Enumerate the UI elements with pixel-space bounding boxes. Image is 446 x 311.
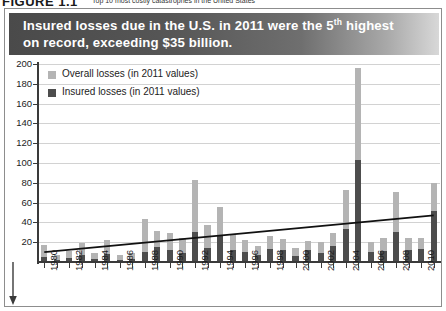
x-axis-tick-mark (145, 263, 146, 268)
x-axis-tick-mark (82, 263, 83, 268)
x-axis-tick-mark (371, 263, 372, 268)
chart-title: Insured losses due in the U.S. in 2011 w… (23, 18, 425, 51)
x-axis-tick-mark (220, 263, 221, 268)
y-axis-tick-label: 20 (2, 236, 32, 247)
x-axis-tick-mark (107, 263, 108, 268)
figure-root: FIGURE 1.1 Top 10 most costly catastroph… (0, 0, 446, 311)
x-axis-tick-mark (358, 263, 359, 268)
x-axis-tick-mark (120, 263, 121, 268)
y-axis-tick-mark (33, 222, 38, 223)
y-axis-tick-mark (33, 123, 38, 124)
y-axis-tick-mark (33, 242, 38, 243)
y-axis-tick-mark (33, 203, 38, 204)
y-axis-tick-label: 160 (2, 98, 32, 109)
title-banner: Insured losses due in the U.S. in 2011 w… (9, 13, 439, 55)
x-axis-tick-mark (170, 263, 171, 268)
x-axis-tick-mark (157, 263, 158, 268)
y-axis-tick-label: 60 (2, 197, 32, 208)
y-axis-tick-mark (33, 84, 38, 85)
y-axis-tick-label: 180 (2, 78, 32, 89)
x-axis-tick-mark (95, 263, 96, 268)
y-axis-tick-mark (33, 163, 38, 164)
x-axis-tick-mark (308, 263, 309, 268)
y-axis-tick-mark (33, 143, 38, 144)
y-axis-tick-mark (33, 183, 38, 184)
x-axis-tick-mark (434, 263, 435, 268)
y-axis-tick-label: 80 (2, 177, 32, 188)
legend-label-insured: Insured losses (in 2011 values) (62, 86, 200, 97)
x-axis-tick-mark (208, 263, 209, 268)
legend-label-overall: Overall losses (in 2011 values) (62, 68, 198, 79)
figure-caption-text: Top 10 most costly catastrophes in the U… (92, 0, 255, 4)
x-axis-tick-mark (383, 263, 384, 268)
x-axis-tick-mark (270, 263, 271, 268)
x-axis-tick-mark (409, 263, 410, 268)
down-arrow-icon (8, 262, 18, 306)
y-axis-tick-label: 200 (2, 58, 32, 69)
x-axis-tick-mark (132, 263, 133, 268)
chart-title-ordinal-suffix: th (334, 17, 342, 27)
x-axis-tick-mark (69, 263, 70, 268)
x-axis-tick-mark (182, 263, 183, 268)
y-axis-tick-mark (33, 104, 38, 105)
x-axis-tick-mark (245, 263, 246, 268)
x-axis-tick-mark (258, 263, 259, 268)
y-axis-tick-mark (33, 64, 38, 65)
chart-title-line2: on record, exceeding $35 billion. (23, 35, 232, 50)
legend-swatch-insured-icon (48, 89, 56, 97)
x-axis-tick-mark (57, 263, 58, 268)
legend-swatch-overall-icon (48, 71, 56, 79)
x-axis-tick-mark (296, 263, 297, 268)
x-axis-tick-mark (321, 263, 322, 268)
x-axis-tick-mark (195, 263, 196, 268)
x-axis-tick-mark (421, 263, 422, 268)
x-axis-tick-mark (333, 263, 334, 268)
chart-title-line1-a: Insured losses due in the U.S. in 2011 w… (23, 18, 334, 33)
x-axis-tick-mark (233, 263, 234, 268)
chart-title-line1-b: highest (342, 18, 394, 33)
y-axis-tick-label: 120 (2, 137, 32, 148)
y-axis-tick-label: 100 (2, 157, 32, 168)
x-axis-tick-mark (44, 263, 45, 268)
y-axis-tick-label: 40 (2, 216, 32, 227)
x-axis-tick-mark (346, 263, 347, 268)
x-axis-tick-mark (283, 263, 284, 268)
y-axis-tick-label: 140 (2, 117, 32, 128)
x-axis-tick-mark (396, 263, 397, 268)
trend-line-path (44, 215, 433, 252)
